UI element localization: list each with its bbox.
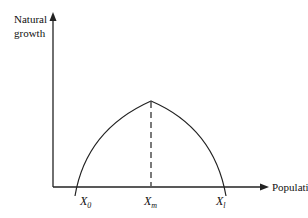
y-axis-label-line2: growth xyxy=(14,27,45,40)
x-axis-label: Population xyxy=(272,181,308,194)
diagram-canvas xyxy=(0,0,308,218)
y-axis-arrow-icon xyxy=(50,12,57,21)
x-axis-arrow-icon xyxy=(260,184,269,191)
point-xm-label: Xm xyxy=(144,194,157,210)
y-axis-label-line1: Natural xyxy=(14,13,47,26)
point-x0-label: X0 xyxy=(80,194,91,210)
point-xl-label: Xl xyxy=(216,194,226,210)
